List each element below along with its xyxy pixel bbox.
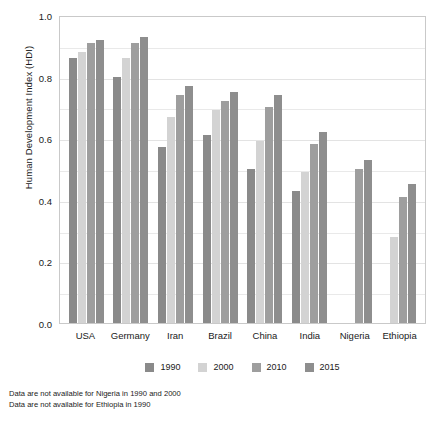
x-axis-label-usa: USA bbox=[63, 330, 108, 346]
bar-china-1990[interactable] bbox=[247, 169, 255, 323]
y-axis-tick-labels: 1.00.80.60.40.20.0 bbox=[22, 16, 52, 324]
bar-germany-2000[interactable] bbox=[122, 58, 130, 323]
legend-label-2015: 2015 bbox=[320, 362, 340, 372]
y-axis-tick-label: 0.6 bbox=[39, 134, 52, 145]
bar-germany-2010[interactable] bbox=[131, 43, 139, 323]
y-axis-tick-label: 0.2 bbox=[39, 257, 52, 268]
bar-ethiopia-2015[interactable] bbox=[408, 184, 416, 323]
legend-item-2000[interactable]: 2000 bbox=[198, 362, 233, 372]
bar-iran-1990[interactable] bbox=[158, 147, 166, 323]
bar-usa-2015[interactable] bbox=[96, 40, 104, 323]
bar-nigeria-2015[interactable] bbox=[364, 160, 372, 323]
chart-footnotes: Data are not available for Nigeria in 19… bbox=[9, 388, 429, 410]
legend-label-2000: 2000 bbox=[213, 362, 233, 372]
bar-germany-2015[interactable] bbox=[140, 37, 148, 323]
legend-swatch-2010 bbox=[252, 363, 261, 372]
chart-legend: 1990200020102015 bbox=[59, 362, 426, 372]
footnote-1: Data are not available for Nigeria in 19… bbox=[9, 388, 429, 399]
bar-group bbox=[198, 17, 243, 323]
y-axis-tick-label: 0.4 bbox=[39, 195, 52, 206]
bar-india-2015[interactable] bbox=[319, 132, 327, 323]
bar-india-1990[interactable] bbox=[292, 191, 300, 323]
plot-area-frame bbox=[59, 16, 426, 324]
legend-swatch-2000 bbox=[198, 363, 207, 372]
bar-china-2010[interactable] bbox=[265, 107, 273, 323]
bar-usa-1990[interactable] bbox=[69, 58, 77, 323]
x-axis-label-germany: Germany bbox=[108, 330, 153, 346]
legend-label-1990: 1990 bbox=[160, 362, 180, 372]
legend-item-2015[interactable]: 2015 bbox=[305, 362, 340, 372]
bar-group bbox=[109, 17, 154, 323]
bar-ethiopia-2010[interactable] bbox=[399, 197, 407, 323]
bar-group bbox=[376, 17, 421, 323]
hdi-bar-chart-figure: Human Development Index (HDI) 1.00.80.60… bbox=[0, 0, 445, 426]
bar-india-2000[interactable] bbox=[301, 172, 309, 323]
legend-swatch-1990 bbox=[145, 363, 154, 372]
x-axis-label-brazil: Brazil bbox=[198, 330, 243, 346]
bar-iran-2000[interactable] bbox=[167, 117, 175, 323]
y-axis-tick-label: 0.8 bbox=[39, 72, 52, 83]
x-axis-label-nigeria: Nigeria bbox=[332, 330, 377, 346]
bar-iran-2015[interactable] bbox=[185, 86, 193, 323]
bar-group bbox=[287, 17, 332, 323]
bar-india-2010[interactable] bbox=[310, 144, 318, 323]
bar-china-2015[interactable] bbox=[274, 95, 282, 323]
y-axis-tick-label: 1.0 bbox=[39, 11, 52, 22]
x-axis-label-iran: Iran bbox=[153, 330, 198, 346]
x-axis-label-india: India bbox=[287, 330, 332, 346]
bar-group bbox=[332, 17, 377, 323]
x-axis-label-china: China bbox=[243, 330, 288, 346]
bar-group bbox=[243, 17, 288, 323]
bar-brazil-2015[interactable] bbox=[230, 92, 238, 323]
legend-swatch-2015 bbox=[305, 363, 314, 372]
bar-brazil-1990[interactable] bbox=[203, 135, 211, 323]
bar-brazil-2010[interactable] bbox=[221, 101, 229, 323]
y-axis-tick-label: 0.0 bbox=[39, 319, 52, 330]
bar-china-2000[interactable] bbox=[256, 141, 264, 323]
bar-nigeria-2010[interactable] bbox=[355, 169, 363, 323]
bar-germany-1990[interactable] bbox=[113, 77, 121, 323]
x-axis-label-ethiopia: Ethiopia bbox=[377, 330, 422, 346]
bar-usa-2010[interactable] bbox=[87, 43, 95, 323]
bar-usa-2000[interactable] bbox=[78, 52, 86, 323]
bar-group bbox=[153, 17, 198, 323]
bar-group bbox=[64, 17, 109, 323]
bar-brazil-2000[interactable] bbox=[212, 110, 220, 323]
footnote-2: Data are not available for Ethiopia in 1… bbox=[9, 399, 429, 410]
legend-label-2010: 2010 bbox=[267, 362, 287, 372]
bar-groups bbox=[60, 17, 425, 323]
legend-item-1990[interactable]: 1990 bbox=[145, 362, 180, 372]
legend-item-2010[interactable]: 2010 bbox=[252, 362, 287, 372]
x-axis-category-labels: USAGermanyIranBrazilChinaIndiaNigeriaEth… bbox=[59, 330, 426, 346]
bar-iran-2010[interactable] bbox=[176, 95, 184, 323]
bar-ethiopia-2000[interactable] bbox=[390, 237, 398, 323]
